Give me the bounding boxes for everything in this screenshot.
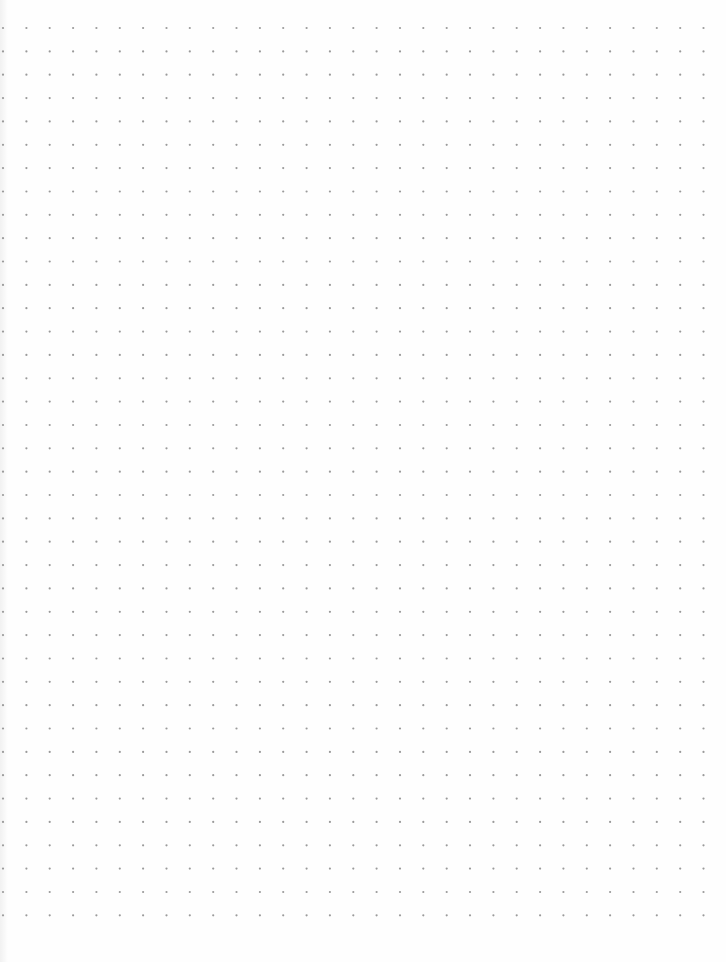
grid-dot [2, 657, 4, 659]
grid-dot [95, 97, 97, 99]
grid-dot [516, 681, 518, 683]
grid-dot [329, 401, 331, 403]
grid-dot [492, 751, 494, 753]
grid-dot [446, 260, 448, 262]
grid-dot [469, 97, 471, 99]
grid-dot [235, 144, 237, 146]
grid-dot [235, 751, 237, 753]
grid-dot [119, 260, 121, 262]
grid-dot [702, 891, 704, 893]
grid-dot [25, 284, 27, 286]
grid-dot [25, 868, 27, 870]
grid-dot [492, 447, 494, 449]
grid-dot [679, 868, 681, 870]
grid-dot [632, 634, 634, 636]
grid-dot [119, 237, 121, 239]
grid-dot [586, 798, 588, 800]
grid-dot [235, 190, 237, 192]
grid-dot [539, 891, 541, 893]
grid-dot [702, 307, 704, 309]
grid-dot [539, 657, 541, 659]
grid-dot [539, 774, 541, 776]
grid-dot [142, 27, 144, 29]
grid-dot [2, 751, 4, 753]
grid-dot [119, 74, 121, 76]
grid-dot [25, 144, 27, 146]
grid-dot [632, 284, 634, 286]
grid-dot [95, 167, 97, 169]
grid-dot [235, 541, 237, 543]
grid-dot [165, 354, 167, 356]
grid-dot [25, 354, 27, 356]
grid-dot [516, 447, 518, 449]
grid-dot [702, 681, 704, 683]
grid-dot [282, 167, 284, 169]
grid-dot [2, 354, 4, 356]
grid-dot [422, 167, 424, 169]
grid-dot [142, 424, 144, 426]
grid-dot [492, 144, 494, 146]
grid-dot [329, 307, 331, 309]
grid-dot [702, 914, 704, 916]
grid-dot [142, 564, 144, 566]
grid-dot [539, 27, 541, 29]
grid-dot [259, 190, 261, 192]
grid-dot [165, 214, 167, 216]
grid-dot [142, 167, 144, 169]
grid-dot [516, 120, 518, 122]
grid-dot [609, 214, 611, 216]
grid-dot [165, 681, 167, 683]
grid-dot [142, 214, 144, 216]
grid-dot [446, 120, 448, 122]
grid-dot [119, 611, 121, 613]
grid-dot [446, 27, 448, 29]
grid-dot [702, 27, 704, 29]
grid-dot [212, 144, 214, 146]
grid-dot [609, 120, 611, 122]
grid-dot [142, 727, 144, 729]
grid-dot [399, 541, 401, 543]
grid-dot [259, 50, 261, 52]
grid-dot [422, 891, 424, 893]
grid-dot [189, 74, 191, 76]
grid-dot [329, 657, 331, 659]
grid-dot [235, 260, 237, 262]
grid-dot [656, 891, 658, 893]
grid-dot [492, 727, 494, 729]
grid-dot [165, 447, 167, 449]
grid-dot [212, 914, 214, 916]
grid-dot [609, 424, 611, 426]
grid-dot [25, 751, 27, 753]
grid-dot [2, 307, 4, 309]
grid-dot [212, 377, 214, 379]
grid-dot [306, 167, 308, 169]
grid-dot [2, 774, 4, 776]
grid-dot [469, 704, 471, 706]
grid-dot [95, 331, 97, 333]
grid-dot [282, 634, 284, 636]
grid-dot [656, 260, 658, 262]
grid-dot [329, 681, 331, 683]
grid-dot [586, 144, 588, 146]
grid-dot [165, 97, 167, 99]
grid-dot [632, 260, 634, 262]
grid-dot [306, 564, 308, 566]
grid-dot [72, 307, 74, 309]
grid-dot [282, 704, 284, 706]
grid-dot [212, 681, 214, 683]
grid-dot [72, 844, 74, 846]
grid-dot [586, 377, 588, 379]
grid-dot [25, 727, 27, 729]
grid-dot [119, 424, 121, 426]
grid-dot [586, 821, 588, 823]
grid-dot [72, 681, 74, 683]
grid-dot [25, 587, 27, 589]
dot-grid [0, 0, 726, 962]
grid-dot [539, 237, 541, 239]
grid-dot [49, 260, 51, 262]
grid-dot [469, 611, 471, 613]
grid-dot [119, 798, 121, 800]
grid-dot [539, 844, 541, 846]
grid-dot [306, 868, 308, 870]
grid-dot [516, 751, 518, 753]
